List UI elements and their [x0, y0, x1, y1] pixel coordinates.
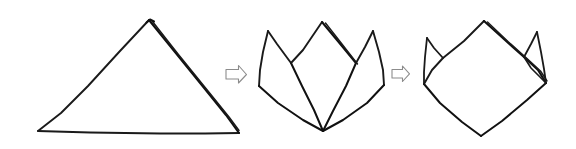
canvas-background: [0, 0, 576, 149]
diagram-canvas: [0, 0, 576, 149]
origami-diagram: Origami folding sequence Hand-drawn thre…: [0, 0, 576, 149]
